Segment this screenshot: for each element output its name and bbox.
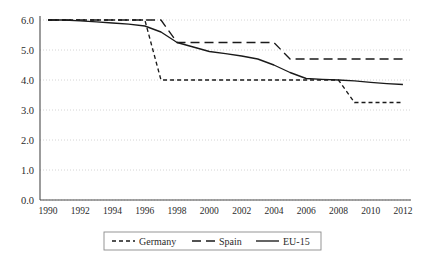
data-series-group [48, 20, 403, 103]
x-tick-label: 1996 [135, 206, 154, 216]
x-tick-label: 2002 [232, 206, 251, 216]
legend-item-germany[interactable]: Germany [112, 236, 176, 247]
x-tick-label: 2006 [297, 206, 316, 216]
gridlines [40, 20, 411, 200]
legend-item-eu-15[interactable]: EU-15 [256, 236, 310, 247]
x-tick-label: 1990 [39, 206, 58, 216]
legend-label: Spain [219, 236, 242, 247]
legend-item-spain[interactable]: Spain [192, 236, 242, 247]
y-axis-tick-labels: 0.01.02.03.04.05.06.0 [21, 15, 34, 206]
y-tick-label: 3.0 [21, 105, 34, 116]
y-tick-label: 4.0 [21, 75, 34, 86]
series-line-eu-15 [48, 20, 403, 85]
legend-label: Germany [139, 236, 176, 247]
line-chart: 0.01.02.03.04.05.06.0 199019921994199619… [0, 0, 425, 263]
x-tick-label: 2012 [393, 206, 412, 216]
chart-legend: GermanySpainEU-15 [104, 232, 321, 250]
legend-label: EU-15 [283, 236, 310, 247]
y-tick-label: 2.0 [21, 135, 34, 146]
y-tick-label: 0.0 [21, 195, 34, 206]
x-tick-label: 1992 [71, 206, 90, 216]
series-line-germany [48, 20, 403, 103]
x-tick-label: 2010 [361, 206, 380, 216]
x-axis-tick-labels: 1990199219941996199820002002200420062008… [39, 206, 413, 216]
x-tick-label: 2008 [329, 206, 348, 216]
y-tick-label: 1.0 [21, 165, 34, 176]
x-tick-label: 2000 [200, 206, 219, 216]
x-tick-label: 1994 [103, 206, 122, 216]
x-tick-label: 1998 [168, 206, 187, 216]
y-tick-label: 6.0 [21, 15, 34, 26]
chart-canvas: 0.01.02.03.04.05.06.0 199019921994199619… [0, 0, 425, 263]
x-tick-label: 2004 [264, 206, 283, 216]
y-tick-label: 5.0 [21, 45, 34, 56]
axes [40, 16, 411, 200]
